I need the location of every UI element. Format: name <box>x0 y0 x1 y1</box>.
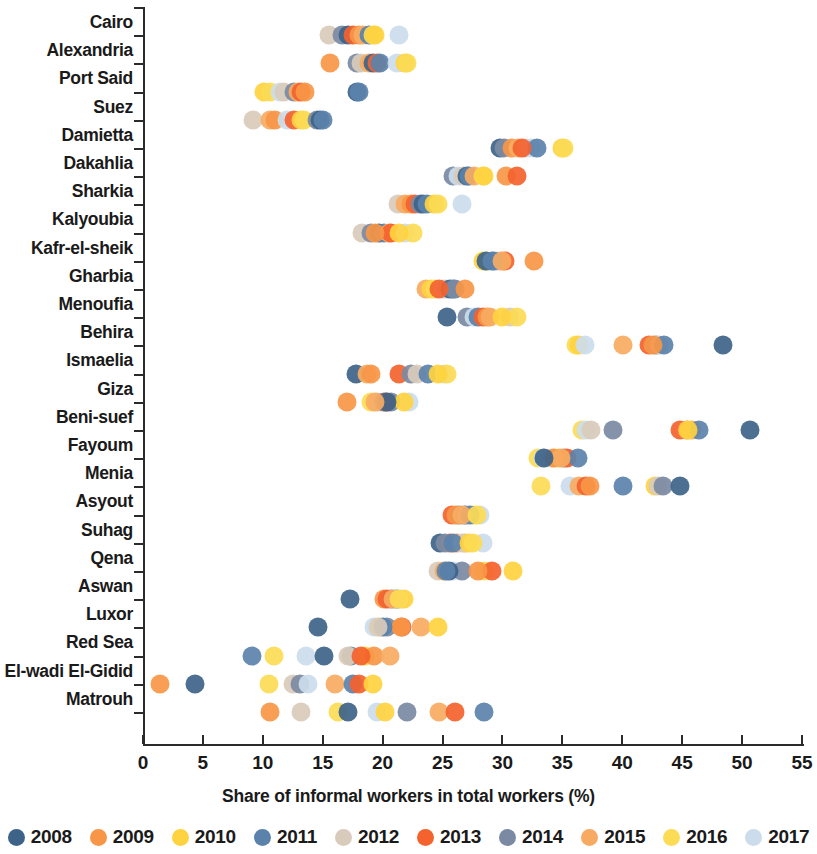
data-point <box>531 477 550 496</box>
y-axis-tick <box>134 656 143 658</box>
data-point <box>507 167 526 186</box>
y-axis-tick <box>134 233 143 235</box>
data-point <box>366 392 385 411</box>
data-point <box>366 223 385 242</box>
data-point <box>259 674 278 693</box>
y-axis-tick <box>134 627 143 629</box>
data-point <box>361 364 380 383</box>
data-point <box>428 364 447 383</box>
legend-label: 2015 <box>604 826 645 848</box>
y-axis-tick <box>134 684 143 686</box>
legend-item-2013[interactable]: 2013 <box>417 826 481 848</box>
legend-item-2014[interactable]: 2014 <box>499 826 563 848</box>
x-axis-title: Share of informal workers in total worke… <box>0 786 817 807</box>
data-point <box>445 702 464 721</box>
y-axis-label: Kalyoubia <box>52 209 133 230</box>
data-point <box>437 561 456 580</box>
data-point <box>475 702 494 721</box>
x-axis-tick-label: 5 <box>198 752 209 774</box>
y-axis-tick <box>134 486 143 488</box>
y-axis-label: Behira <box>80 322 133 343</box>
data-point <box>395 392 414 411</box>
legend-label: 2013 <box>440 826 481 848</box>
x-axis-tick-label: 15 <box>312 752 333 774</box>
y-axis-tick <box>134 345 143 347</box>
data-point <box>614 336 633 355</box>
y-axis-label: Fayoum <box>68 435 133 456</box>
y-axis-labels: CairoAlexandriaPort SaidSuezDamiettaDaka… <box>0 0 133 760</box>
data-point <box>582 420 601 439</box>
legend-item-2011[interactable]: 2011 <box>254 826 317 848</box>
data-point <box>554 138 573 157</box>
y-axis-label: Cairo <box>90 12 133 33</box>
x-axis-tick <box>621 735 623 744</box>
legend-swatch-icon <box>172 829 189 846</box>
data-point <box>185 674 204 693</box>
y-axis-label: Kafr-el-sheik <box>31 237 133 258</box>
x-axis-tick <box>442 735 444 744</box>
data-point <box>320 54 339 73</box>
data-point <box>576 336 595 355</box>
legend-swatch-icon <box>335 829 352 846</box>
y-axis-label: Suhag <box>81 519 133 540</box>
x-axis-tick <box>382 735 384 744</box>
y-axis-tick <box>134 317 143 319</box>
y-axis-label: Port Said <box>59 68 133 89</box>
legend-label: 2009 <box>113 826 154 848</box>
x-axis-tick <box>262 735 264 744</box>
data-point <box>243 646 262 665</box>
legend-swatch-icon <box>499 829 516 846</box>
x-axis-tick <box>741 735 743 744</box>
y-axis-label: Giza <box>97 378 133 399</box>
y-axis-label: Damietta <box>61 124 133 145</box>
data-point <box>299 674 318 693</box>
data-point <box>364 674 383 693</box>
y-axis-tick <box>134 204 143 206</box>
legend-swatch-icon <box>417 829 434 846</box>
data-point <box>314 646 333 665</box>
data-point <box>352 646 371 665</box>
y-axis-tick <box>134 599 143 601</box>
data-point <box>456 279 475 298</box>
y-axis-label: Beni-suef <box>56 406 133 427</box>
x-axis-tick-label: 40 <box>612 752 633 774</box>
legend-label: 2012 <box>358 826 399 848</box>
data-point <box>264 646 283 665</box>
data-point <box>452 195 471 214</box>
data-point <box>552 449 571 468</box>
legend-item-2015[interactable]: 2015 <box>581 826 645 848</box>
data-point <box>349 82 368 101</box>
x-axis-tick <box>681 735 683 744</box>
data-point <box>679 420 698 439</box>
data-point <box>391 618 410 637</box>
data-point <box>463 533 482 552</box>
y-axis-tick-top <box>134 7 143 9</box>
data-point <box>469 561 488 580</box>
legend-item-2009[interactable]: 2009 <box>90 826 154 848</box>
y-axis-tick <box>134 63 143 65</box>
data-point <box>390 223 409 242</box>
y-axis-label: Matrouh <box>66 688 133 709</box>
legend-item-2008[interactable]: 2008 <box>8 826 72 848</box>
data-point <box>475 167 494 186</box>
data-point <box>568 449 587 468</box>
data-point <box>741 420 760 439</box>
y-axis-tick <box>134 571 143 573</box>
data-point <box>512 138 531 157</box>
legend-label: 2014 <box>522 826 563 848</box>
legend-item-2010[interactable]: 2010 <box>172 826 236 848</box>
y-axis-label: Luxor <box>86 604 133 625</box>
data-point <box>603 420 622 439</box>
data-point <box>580 477 599 496</box>
data-point <box>438 308 457 327</box>
legend-item-2017[interactable]: 2017 <box>745 826 809 848</box>
data-point <box>325 674 344 693</box>
y-axis-tick <box>134 289 143 291</box>
y-axis-label: Gharbia <box>69 265 133 286</box>
y-axis-tick <box>134 35 143 37</box>
legend-item-2016[interactable]: 2016 <box>663 826 727 848</box>
x-axis-tick <box>322 735 324 744</box>
y-axis-tick <box>134 120 143 122</box>
legend-item-2012[interactable]: 2012 <box>335 826 399 848</box>
legend-swatch-icon <box>663 829 680 846</box>
